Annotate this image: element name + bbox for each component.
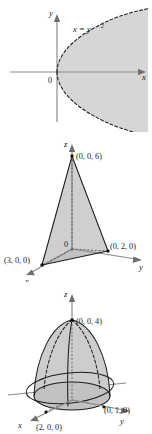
vertex-dot-apex	[70, 318, 74, 322]
vertex-label-apex: (0, 0, 6)	[76, 152, 102, 161]
paraboloid-svg: z y x (0, 0, 4) (2, 0, 0) (0, 1, 0)	[0, 282, 152, 434]
curve-equation-label: x = y	[72, 24, 91, 34]
origin-label: 0	[48, 76, 52, 85]
x-axis-arrowhead	[30, 416, 39, 422]
vertex-dot-apex	[70, 154, 73, 157]
y-axis-label: y	[48, 8, 53, 18]
vertex-label-x: (3, 0, 0)	[4, 256, 30, 265]
curve-equation-exponent: 2	[101, 23, 104, 29]
x-axis-label: x	[141, 72, 146, 82]
z-axis-arrowhead	[69, 144, 75, 152]
z-axis-label: z	[63, 139, 68, 149]
y-axis-arrowhead	[54, 14, 60, 22]
tetra-face-slant	[42, 156, 108, 265]
x-axis-label: x	[17, 420, 22, 430]
vertex-dot-x	[44, 410, 47, 413]
parabola-region-svg: y x 0 x = y 2	[0, 0, 152, 132]
origin-label: 0	[64, 240, 68, 249]
y-axis-label: y	[119, 416, 124, 426]
panel-parabola-region: y x 0 x = y 2	[0, 0, 152, 132]
vertex-label-y: (0, 2, 0)	[110, 242, 136, 251]
z-axis-label: z	[63, 289, 68, 299]
tetrahedron-svg: z y x 0 (0, 0, 6) (3, 0, 0) (0, 2, 0)	[0, 132, 152, 282]
vertex-label-x: (2, 0, 0)	[36, 423, 62, 432]
vertex-label-y: (0, 1, 0)	[104, 406, 130, 415]
panel-tetrahedron: z y x 0 (0, 0, 6) (3, 0, 0) (0, 2, 0)	[0, 132, 152, 282]
panel-paraboloid: z y x (0, 0, 4) (2, 0, 0) (0, 1, 0)	[0, 282, 152, 434]
vertex-label-apex: (0, 0, 4)	[76, 317, 102, 326]
y-axis-label: y	[138, 262, 143, 272]
z-axis-arrowhead	[69, 294, 75, 302]
vertex-dot-x	[40, 263, 43, 266]
figure-sheet: y x 0 x = y 2	[0, 0, 152, 434]
